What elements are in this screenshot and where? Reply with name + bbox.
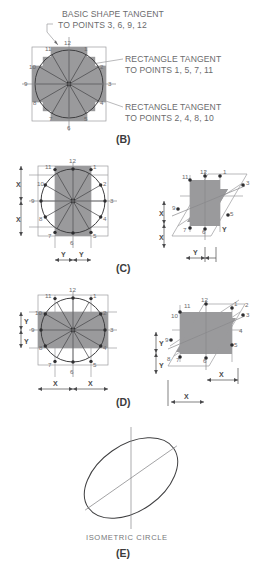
panel-d-dim-y-top: Y	[24, 318, 29, 325]
panel-d-iso-horizontal-dimension: X X	[168, 368, 238, 406]
panel-c-point-7: 7	[48, 232, 52, 239]
panel-d-point-8: 8	[39, 344, 43, 351]
panel-c-point-3: 3	[110, 197, 114, 204]
panel-c-iso-dim-y-left: Y	[193, 249, 198, 256]
panel-d-point-1: 1	[93, 292, 97, 299]
panel-c-iso-point-12: 12	[200, 168, 207, 175]
panel-c-ortho-diagram: 1 2 3 4 5 6 7 8 9 10 11 12 X X	[16, 157, 117, 262]
panel-d-iso-point-10: 10	[171, 312, 178, 319]
panel-c-point-5: 5	[93, 232, 97, 239]
annotation-basic-line1: BASIC SHAPE TANGENT	[62, 9, 165, 19]
panel-c-iso-dim-y-right: Y	[222, 226, 227, 233]
panel-d-point-2: 2	[103, 309, 107, 316]
panel-d-ortho-diagram: 1 2 3 4 5 6 7 8 9 10 11 12 Y Y	[19, 286, 117, 391]
panel-d-point-7: 7	[48, 361, 52, 368]
panel-d-iso-point-6: 6	[203, 357, 207, 364]
panel-b-point-6: 6	[67, 124, 71, 131]
panel-d-iso-point-9: 9	[165, 336, 169, 343]
panel-d-iso-point-11: 11	[184, 302, 191, 309]
panel-d-iso-dim-y-bottom: Y	[159, 362, 164, 369]
panel-d-iso-point-8: 8	[167, 355, 171, 362]
panel-c-dim-x-top: X	[16, 181, 21, 188]
panel-b-point-2: 2	[100, 63, 104, 70]
panel-c-dim-x-bottom: X	[16, 216, 21, 223]
annotation-even-line1: RECTANGLE TANGENT	[125, 102, 222, 112]
panel-b-point-12: 12	[64, 39, 71, 46]
panel-b-point-7: 7	[49, 115, 53, 122]
panel-d-iso-point-4: 4	[239, 327, 243, 334]
panel-d-dim-x-right: X	[88, 380, 93, 387]
annotation-rectangle-tangent-odd: RECTANGLE TANGENT TO POINTS 1, 5, 7, 11	[92, 54, 222, 75]
annotation-even-line2: TO POINTS 2, 4, 8, 10	[125, 113, 214, 123]
panel-c-horizontal-dimension: Y Y	[55, 251, 91, 262]
panel-d-point-9: 9	[31, 326, 35, 333]
panel-b-point-1: 1	[84, 45, 88, 52]
panel-c-iso-point-11: 11	[182, 173, 189, 180]
panel-d-point-6: 6	[70, 368, 74, 375]
panel-label-b: (B)	[116, 133, 131, 145]
annotation-rectangle-tangent-even: RECTANGLE TANGENT TO POINTS 2, 4, 8, 10	[100, 99, 222, 123]
panel-d-iso-point-2: 2	[245, 301, 249, 308]
panel-label-c: (C)	[116, 262, 131, 274]
panel-d-horizontal-dimension: X X	[38, 380, 108, 391]
panel-d-dim-x-left: X	[53, 380, 58, 387]
annotation-odd-line1: RECTANGLE TANGENT	[125, 54, 222, 64]
panel-d-iso-vertical-dimension: Y Y	[154, 332, 164, 374]
panel-b-point-8: 8	[33, 99, 37, 106]
panel-d-iso-dim-x-right: X	[219, 371, 224, 378]
panel-c-point-6: 6	[70, 239, 74, 246]
panel-c-iso-point-5: 5	[230, 210, 234, 217]
panel-d-point-12: 12	[69, 286, 76, 293]
panel-d-point-4: 4	[103, 344, 107, 351]
panel-c-point-9: 9	[31, 197, 35, 204]
panel-label-e: (E)	[116, 547, 130, 559]
panel-b-diagram: 1 2 3 4 5 6 7 8 9 10 11 12	[22, 37, 116, 131]
panel-c-iso-point-9: 9	[172, 204, 176, 211]
panel-c-iso-point-1: 1	[223, 168, 227, 175]
panel-c-dim-y-left: Y	[61, 251, 66, 258]
panel-c-iso-point-6: 6	[202, 228, 206, 235]
panel-c-iso-diagram: 1 3 5 6 7 9 11 12 X X Y Y	[159, 168, 250, 262]
panel-c-iso-point-7: 7	[183, 226, 187, 233]
panel-b-point-4: 4	[100, 99, 104, 106]
panel-e-caption: ISOMETRIC CIRCLE	[86, 533, 168, 542]
annotation-basic-line2: TO POINTS 3, 6, 9, 12	[58, 20, 147, 30]
panel-b-point-5: 5	[84, 115, 88, 122]
panel-d-iso-dim-x-left: X	[184, 393, 189, 400]
panel-d-iso-diagram: 1 2 3 4 5 6 7 8 9 10 11 12 Y Y	[154, 296, 250, 406]
panel-d-iso-point-7: 7	[176, 356, 180, 363]
panel-e-isometric-circle	[66, 419, 196, 537]
panel-d-iso-dim-y-top: Y	[159, 340, 164, 347]
panel-b-point-9: 9	[24, 80, 28, 87]
panel-c-point-12: 12	[69, 157, 76, 164]
panel-d-vertical-dimension: Y Y	[19, 312, 29, 348]
panel-b-point-10: 10	[29, 63, 36, 70]
panel-label-d: (D)	[116, 396, 131, 408]
panel-c-point-2: 2	[103, 180, 107, 187]
panel-d-iso-point-5: 5	[234, 341, 238, 348]
panel-d-point-3: 3	[110, 326, 114, 333]
panel-d-iso-point-1: 1	[234, 300, 238, 307]
panel-c-iso-horizontal-dimension: Y Y	[186, 226, 227, 262]
panel-d-dim-y-bottom: Y	[24, 338, 29, 345]
panel-c-iso-dim-x-bottom: X	[159, 234, 164, 241]
panel-d-iso-point-12: 12	[201, 296, 208, 303]
panel-c-point-4: 4	[103, 215, 107, 222]
panel-d-iso-point-3: 3	[246, 311, 250, 318]
panel-d-point-11: 11	[45, 292, 52, 299]
panel-c-iso-point-3: 3	[246, 179, 250, 186]
panel-c-point-10: 10	[37, 180, 44, 187]
panel-b-point-11: 11	[45, 45, 52, 52]
panel-d-point-10: 10	[35, 309, 42, 316]
panel-c-point-1: 1	[93, 163, 97, 170]
leader-odd	[92, 59, 123, 64]
leader-basic-bracket	[47, 24, 53, 32]
panel-c-point-8: 8	[39, 215, 43, 222]
panel-c-dim-y-right: Y	[79, 251, 84, 258]
panel-b-point-3: 3	[108, 80, 112, 87]
isometric-circle-construction-figure: BASIC SHAPE TANGENT TO POINTS 3, 6, 9, 1…	[0, 0, 264, 563]
panel-d-point-5: 5	[93, 361, 97, 368]
panel-c-vertical-dimension: X X	[16, 166, 23, 236]
panel-c-point-11: 11	[45, 163, 52, 170]
annotation-odd-line2: TO POINTS 1, 5, 7, 11	[125, 65, 213, 75]
